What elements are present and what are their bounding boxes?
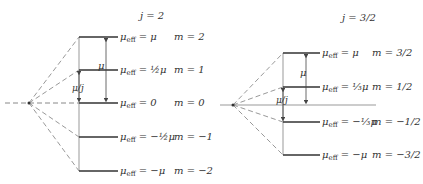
title-j3-2: j = 3/2 [342,12,376,24]
level-label: μeff = 0 [120,97,157,112]
m-label: m = −3/2 [372,149,421,161]
m-label: m = 2 [174,31,205,43]
level-label: μeff = μ [120,31,157,46]
level-label: μeff = −⅓μ [322,116,377,131]
level-label: μeff = −μ [322,149,367,164]
level-label: μeff = ½μ [120,64,167,79]
level-label: μeff = ⅓μ [322,81,369,96]
level-label: μeff = −½μ [120,131,175,146]
spacing-label: μ/j [276,94,288,106]
m-label: m = −2 [174,165,213,177]
diagram-j2 [5,37,118,171]
m-label: m = 3/2 [372,47,412,59]
m-label: m = 1/2 [372,81,412,93]
arrow-label: μ [300,67,307,79]
level-label: μeff = −μ [120,165,165,180]
m-label: m = −1/2 [372,116,421,128]
level-label: μeff = μ [322,47,359,62]
spacing-label: μ/j [72,82,84,94]
m-label: m = 0 [174,97,205,109]
title-j2: j = 2 [140,10,164,22]
arrow-label: μ [98,60,105,72]
m-label: m = −1 [174,131,213,143]
diagram-j3-2 [220,53,376,155]
m-label: m = 1 [174,64,205,76]
